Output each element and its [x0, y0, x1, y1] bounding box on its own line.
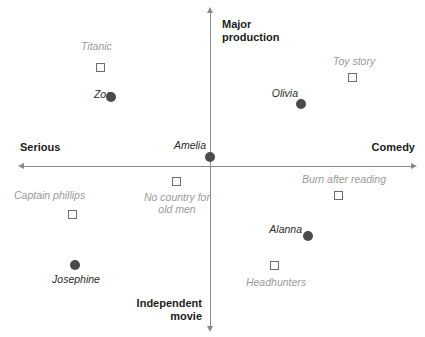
marker-circle-amelia[interactable]: [205, 152, 215, 162]
marker-square-captain-phillips[interactable]: [68, 210, 77, 219]
quadrant-chart: Serious Comedy Major production Independ…: [0, 0, 425, 337]
marker-circle-josephine[interactable]: [70, 260, 80, 270]
marker-square-toy-story[interactable]: [348, 73, 357, 82]
x-axis-line: [22, 166, 415, 167]
data-point-label-amelia: Amelia: [152, 140, 206, 152]
y-axis-down-arrow-icon: [207, 326, 213, 332]
axis-label-independent-movie: Independent movie: [90, 297, 202, 323]
axis-label-major-production: Major production: [222, 18, 279, 44]
x-axis-right-arrow-icon: [411, 163, 417, 169]
data-point-label-burn-after-reading: Burn after reading: [302, 174, 414, 186]
data-point-label-alanna: Alanna: [246, 224, 302, 236]
data-point-label-olivia: Olivia: [246, 88, 298, 100]
axis-label-serious: Serious: [20, 141, 60, 154]
marker-circle-olivia[interactable]: [296, 99, 306, 109]
x-axis-left-arrow-icon: [18, 163, 24, 169]
marker-square-headhunters[interactable]: [270, 261, 279, 270]
marker-square-burn-after-reading[interactable]: [334, 191, 343, 200]
y-axis-up-arrow-icon: [207, 7, 213, 13]
data-point-label-captain-phillips: Captain phillips: [14, 190, 118, 202]
axis-label-comedy: Comedy: [310, 141, 415, 154]
marker-circle-alanna[interactable]: [303, 231, 313, 241]
y-axis-line: [210, 11, 211, 328]
marker-square-titanic[interactable]: [96, 63, 105, 72]
data-point-label-josephine: Josephine: [42, 274, 110, 286]
data-point-label-toy-story: Toy story: [333, 56, 413, 68]
marker-square-no-country-for-old-men[interactable]: [172, 177, 181, 186]
data-point-label-headhunters: Headhunters: [236, 277, 316, 289]
data-point-label-no-country-for-old-men: No country for old men: [131, 192, 223, 215]
marker-circle-zoe[interactable]: [106, 92, 116, 102]
data-point-label-titanic: Titanic: [81, 41, 171, 53]
